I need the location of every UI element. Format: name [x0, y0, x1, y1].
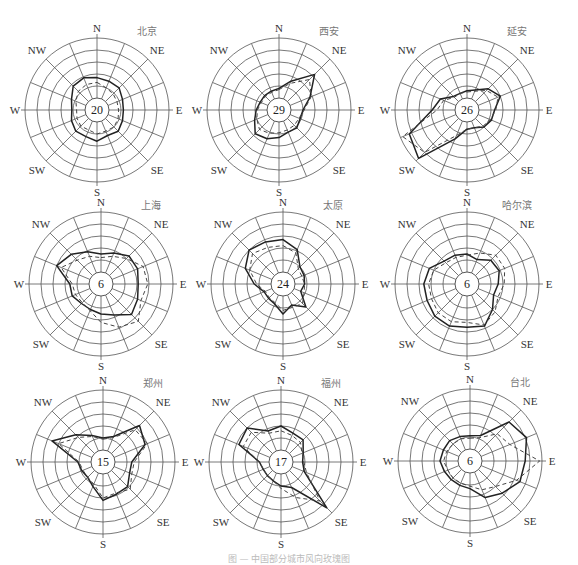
direction-label-nw: NW [32, 218, 51, 230]
grid-spoke [232, 233, 274, 275]
calm-percentage: 29 [273, 103, 285, 117]
grid-spoke [475, 292, 517, 334]
direction-label-ne: NE [523, 395, 538, 407]
wind-rose-7: 17NNEESESSWWNW福州 [194, 374, 367, 550]
direction-label-sw: SW [402, 515, 419, 527]
grid-spoke [475, 59, 517, 101]
direction-label-n: N [97, 196, 105, 208]
grid-spoke [105, 59, 147, 101]
grid-spoke [475, 233, 517, 275]
wind-rose-4: 24NNEESESSWWNW太原 [196, 196, 369, 372]
grid-spoke [419, 469, 461, 511]
direction-label-w: W [383, 455, 394, 467]
grid-spoke [109, 292, 151, 334]
direction-label-nw: NW [401, 395, 420, 407]
grid-spoke [416, 59, 458, 101]
direction-label-s: S [280, 360, 286, 372]
direction-label-se: SE [337, 338, 350, 350]
direction-label-e: E [360, 456, 367, 468]
direction-label-nw: NW [398, 44, 417, 56]
grid-spoke [416, 233, 458, 275]
direction-label-n: N [275, 22, 283, 34]
direction-label-e: E [176, 104, 183, 116]
direction-label-n: N [463, 196, 471, 208]
direction-label-e: E [358, 104, 365, 116]
grid-spoke [111, 470, 153, 512]
grid-spoke [46, 59, 88, 101]
calm-percentage: 24 [277, 277, 289, 291]
city-label: 哈尔滨 [502, 199, 532, 211]
wind-rose-1: 29NNEESESSWWNW西安 [192, 22, 365, 198]
grid-spoke [230, 411, 272, 453]
direction-label-ne: NE [336, 218, 351, 230]
grid-spoke [109, 233, 151, 275]
direction-label-nw: NW [212, 396, 231, 408]
direction-label-n: N [466, 373, 474, 385]
grid-spoke [287, 118, 329, 160]
direction-label-ne: NE [520, 218, 535, 230]
calm-percentage: 6 [464, 277, 470, 291]
figure-caption: 图 — 中国部分城市风向玫瑰图 [0, 552, 578, 565]
direction-label-se: SE [521, 164, 534, 176]
calm-percentage: 26 [461, 103, 473, 117]
direction-label-n: N [279, 196, 287, 208]
calm-percentage: 6 [467, 454, 473, 468]
direction-label-e: E [549, 455, 556, 467]
direction-label-se: SE [155, 338, 168, 350]
wind-rose-8: 6NNEESESSWWNW台北 [383, 373, 556, 549]
direction-label-e: E [362, 278, 369, 290]
grid-spoke [52, 411, 94, 453]
grid-spoke [50, 292, 92, 334]
series-solid [409, 89, 500, 159]
series-solid [440, 422, 527, 498]
city-label: 上海 [141, 199, 161, 211]
direction-label-se: SE [335, 516, 348, 528]
direction-label-s: S [464, 360, 470, 372]
direction-label-nw: NW [210, 44, 229, 56]
direction-label-sw: SW [35, 516, 52, 528]
calm-percentage: 20 [91, 103, 103, 117]
direction-label-e: E [546, 278, 553, 290]
direction-label-se: SE [157, 516, 170, 528]
direction-label-se: SE [151, 164, 164, 176]
direction-label-w: W [14, 278, 25, 290]
wind-rose-3: 6NNEESESSWWNW上海 [14, 196, 187, 372]
direction-label-nw: NW [214, 218, 233, 230]
direction-label-sw: SW [33, 338, 50, 350]
city-label: 郑州 [143, 377, 163, 389]
wind-rose-2: 26NNEESESSWWNW延安 [380, 22, 553, 198]
grid-spoke [228, 118, 270, 160]
city-label: 台北 [510, 376, 530, 388]
city-label: 福州 [321, 377, 341, 389]
direction-label-se: SE [524, 515, 537, 527]
direction-label-w: W [10, 104, 21, 116]
direction-label-sw: SW [213, 516, 230, 528]
direction-label-ne: NE [156, 396, 171, 408]
direction-label-w: W [192, 104, 203, 116]
city-label: 北京 [137, 25, 157, 37]
direction-label-n: N [277, 374, 285, 386]
direction-label-n: N [463, 22, 471, 34]
direction-label-s: S [98, 360, 104, 372]
direction-label-e: E [180, 278, 187, 290]
direction-label-s: S [100, 538, 106, 550]
direction-label-w: W [16, 456, 27, 468]
direction-label-e: E [182, 456, 189, 468]
direction-label-ne: NE [520, 44, 535, 56]
city-label: 延安 [507, 25, 527, 37]
direction-label-sw: SW [211, 164, 228, 176]
direction-label-sw: SW [399, 338, 416, 350]
calm-percentage: 15 [97, 455, 109, 469]
direction-label-sw: SW [399, 164, 416, 176]
grid-spoke [478, 469, 520, 511]
direction-label-ne: NE [154, 218, 169, 230]
direction-label-ne: NE [334, 396, 349, 408]
direction-label-w: W [380, 278, 391, 290]
calm-percentage: 17 [275, 455, 287, 469]
direction-label-ne: NE [332, 44, 347, 56]
direction-label-n: N [93, 22, 101, 34]
city-label: 西安 [319, 25, 339, 37]
wind-rose-6: 15NNEESESSWWNW郑州 [16, 374, 189, 550]
grid-spoke [46, 118, 88, 160]
